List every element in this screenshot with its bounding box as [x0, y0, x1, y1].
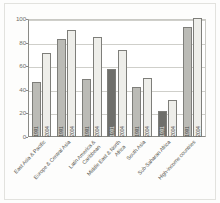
bar: 1991	[57, 39, 66, 137]
bar: 1991	[183, 27, 192, 137]
bar-year-label: 2004	[69, 126, 74, 136]
bar: 1991	[107, 69, 116, 137]
bar-year-label: 1991	[84, 126, 89, 136]
bar-year-label: 2004	[195, 126, 200, 136]
bar: 1991	[132, 87, 141, 137]
bar-year-label: 2004	[44, 126, 49, 136]
y-tick-label: 100	[2, 16, 26, 22]
bar-group: 19912004	[79, 19, 104, 137]
bar-group: 19912004	[104, 19, 129, 137]
bar-year-label: 2004	[120, 126, 125, 136]
bar-group: 19912004	[130, 19, 155, 137]
bar-year-label: 1991	[185, 126, 190, 136]
bar: 1991	[158, 111, 167, 137]
bar: 2004	[118, 50, 127, 137]
y-tick-label: 80	[2, 39, 26, 45]
bar-year-label: 2004	[95, 126, 100, 136]
y-tick-mark	[26, 137, 28, 138]
bar: 1991	[32, 82, 41, 137]
y-axis: 020406080100	[0, 19, 26, 137]
y-tick-label: 40	[2, 87, 26, 93]
bar-year-label: 2004	[170, 126, 175, 136]
bar-year-label: 1991	[160, 126, 165, 136]
bar-year-label: 1991	[34, 126, 39, 136]
bar: 2004	[42, 53, 51, 137]
bars-layer: 1991200419912004199120041991200419912004…	[29, 19, 205, 137]
bar: 1991	[82, 79, 91, 137]
bar-chart-figure: 020406080100 199120041991200419912004199…	[0, 0, 220, 203]
x-axis-category-labels: East Asia & PacificEurope & Central Asia…	[29, 139, 205, 201]
y-tick-label: 0	[2, 134, 26, 140]
bar: 2004	[168, 100, 177, 137]
bar: 2004	[93, 37, 102, 137]
bar-year-label: 2004	[145, 126, 150, 136]
y-tick-label: 20	[2, 110, 26, 116]
bar-group: 19912004	[180, 19, 205, 137]
bar: 2004	[143, 78, 152, 137]
bar-group: 19912004	[54, 19, 79, 137]
bar-group: 19912004	[29, 19, 54, 137]
bar-year-label: 1991	[59, 126, 64, 136]
bar: 2004	[193, 18, 202, 137]
y-tick-label: 60	[2, 63, 26, 69]
bar-year-label: 1991	[134, 126, 139, 136]
bar-year-label: 1991	[109, 126, 114, 136]
bar-group: 19912004	[155, 19, 180, 137]
bar: 2004	[67, 30, 76, 137]
